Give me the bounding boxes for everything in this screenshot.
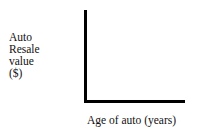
chart-figure: Auto Resale value ($) Age of auto (years… — [0, 0, 198, 139]
x-axis-line — [84, 100, 185, 103]
plot-area — [87, 10, 185, 100]
x-axis-label: Age of auto (years) — [87, 114, 192, 127]
